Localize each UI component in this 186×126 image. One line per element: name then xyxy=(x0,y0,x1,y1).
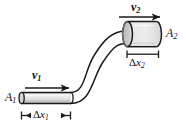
s-curve-pipe-icon xyxy=(71,31,126,104)
area-1-label: A1 xyxy=(5,91,16,103)
velocity-1-label: v1 xyxy=(32,69,41,81)
cylinder-icon-upper xyxy=(123,21,162,46)
displacement-1-label: Δx1 xyxy=(33,109,49,120)
area-2-label: A2 xyxy=(166,27,177,39)
velocity-2-label: v2 xyxy=(131,1,140,13)
cylinder-icon-lower xyxy=(19,92,73,103)
displacement-2-label: Δx2 xyxy=(129,57,145,68)
fluid-flow-diagram: v1 A1 Δx1 v2 A2 Δx2 xyxy=(0,0,186,126)
diagram-canvas xyxy=(0,0,186,126)
